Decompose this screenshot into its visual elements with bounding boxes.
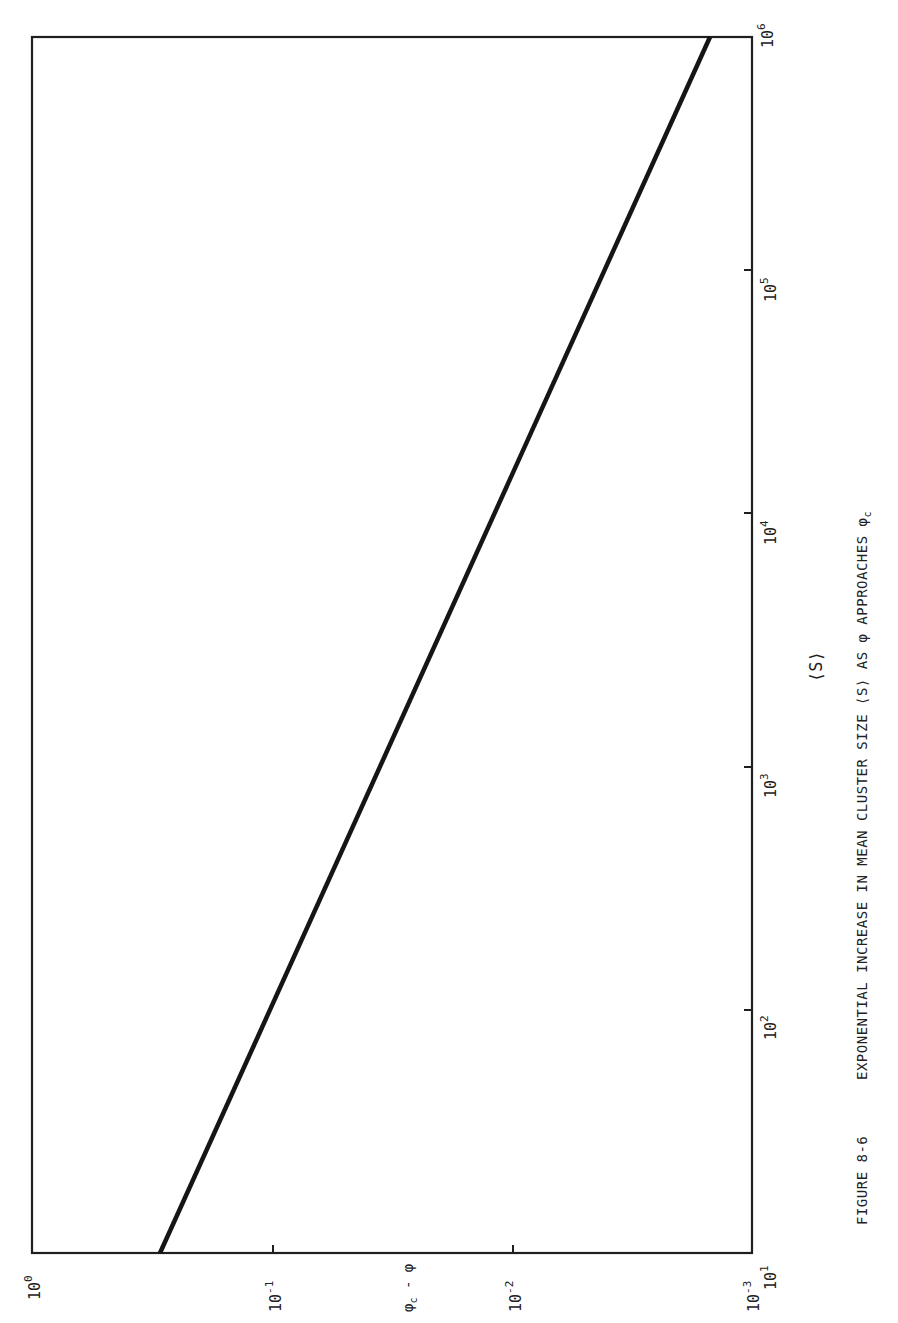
y-tick-label-2: 10-2 [505, 1281, 525, 1312]
y-axis-ticks [273, 1245, 513, 1253]
x-tick-label-5: 105 [760, 277, 780, 302]
x-tick-label-4: 104 [760, 520, 780, 545]
y-tick-label-0: 100 [24, 1275, 44, 1300]
x-tick-label-6: 106 [757, 23, 777, 48]
figure-caption: EXPONENTIAL INCREASE IN MEAN CLUSTER SIZ… [854, 511, 873, 1080]
x-tick-label-1: 101 [760, 1265, 780, 1290]
figure-number: FIGURE 8-6 [854, 1136, 870, 1225]
y-axis-title: φc - φ [400, 1264, 419, 1312]
data-series-line [160, 37, 710, 1253]
x-tick-label-2: 102 [760, 1015, 780, 1040]
y-tick-label-1: 10-1 [265, 1281, 285, 1312]
x-axis-ticks [744, 270, 752, 1010]
plot-frame [32, 37, 752, 1253]
chart-canvas [0, 0, 898, 1323]
x-tick-label-3: 103 [760, 773, 780, 798]
x-axis-title: ⟨S⟩ [806, 651, 826, 682]
